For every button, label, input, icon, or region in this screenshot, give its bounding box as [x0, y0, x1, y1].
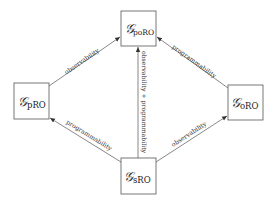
node-subscript: pRO: [27, 100, 46, 110]
edge-label: programmability: [170, 43, 218, 80]
edge-pRO-to-poRO: observability: [49, 37, 120, 86]
node-subscript: poRO: [133, 28, 154, 37]
diagram-svg: observability programmability observabil…: [0, 0, 273, 205]
edge-sRO-to-oRO: observability: [156, 116, 227, 162]
edge-label: observability: [170, 120, 209, 149]
diagram-canvas: observability programmability observabil…: [0, 0, 273, 205]
node-subscript: oRO: [240, 101, 259, 111]
edge-sRO-to-pRO: programmability: [50, 118, 121, 162]
edge-label: observability: [63, 46, 101, 76]
node-pRO: 𝒢 pRO: [14, 83, 49, 119]
edge-label: observability + programmability: [140, 51, 148, 154]
edge-oRO-to-poRO: programmability: [157, 37, 228, 88]
node-subscript: sRO: [133, 175, 151, 185]
node-poRO: 𝒢 poRO: [121, 11, 156, 46]
node-oRO: 𝒢 oRO: [228, 85, 263, 120]
edge-sRO-to-poRO: observability + programmability: [138, 47, 148, 158]
edge-label: programmability: [65, 118, 114, 153]
node-sRO: 𝒢 sRO: [121, 158, 156, 194]
